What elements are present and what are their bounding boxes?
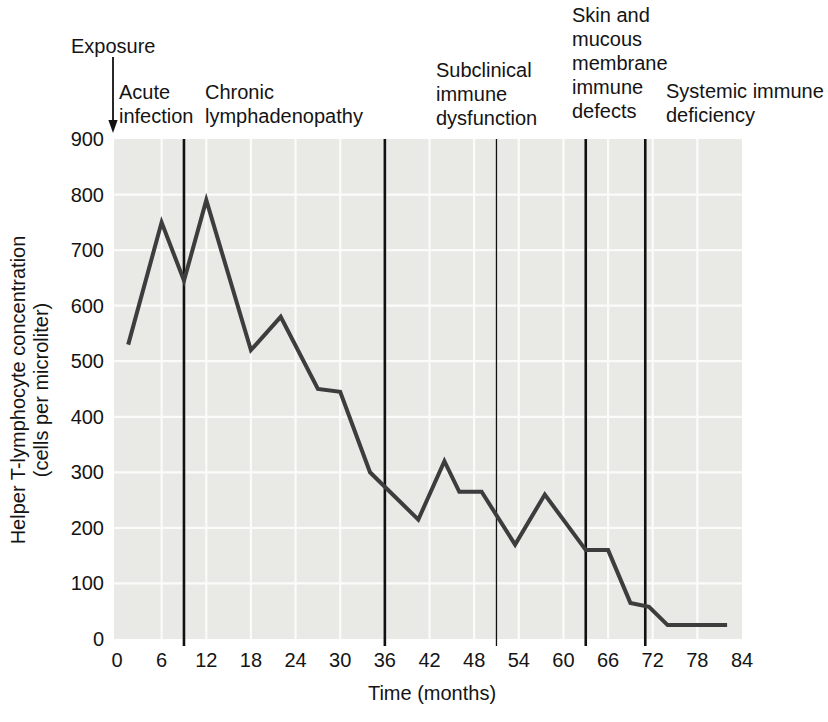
phase-label-skin-and-mucous-membrane-immune-defects: Skin and mucous membrane immune defects (572, 3, 668, 123)
y-axis-title-line2: (cells per microliter) (30, 303, 52, 477)
y-tick-label: 500 (71, 350, 104, 372)
exposure-arrowhead-icon (108, 120, 117, 133)
x-axis-title: Time (months) (368, 682, 496, 704)
phase-label-chronic-lymphadenopathy: Chronic lymphadenopathy (205, 80, 363, 128)
phase-label-systemic-immune-deficiency: Systemic immune deficiency (666, 79, 824, 127)
phase-label-acute-infection: Acute infection (119, 80, 194, 128)
x-tick-label: 12 (195, 649, 217, 671)
x-tick-label: 48 (463, 649, 485, 671)
x-tick-label: 30 (329, 649, 351, 671)
y-tick-label: 900 (71, 128, 104, 150)
y-tick-label: 800 (71, 184, 104, 206)
x-tick-label: 36 (374, 649, 396, 671)
y-tick-label: 0 (93, 628, 104, 650)
exposure-label: Exposure (71, 34, 156, 58)
y-tick-label: 600 (71, 295, 104, 317)
x-tick-label: 0 (111, 649, 122, 671)
y-tick-label: 400 (71, 406, 104, 428)
y-tick-label: 100 (71, 572, 104, 594)
x-tick-label: 78 (686, 649, 708, 671)
figure-hiv-tcell-decline: 0612182430364248546066727884010020030040… (0, 0, 828, 722)
x-tick-label: 24 (284, 649, 306, 671)
x-tick-label: 54 (508, 649, 530, 671)
plot-panel (114, 139, 742, 639)
x-tick-label: 42 (418, 649, 440, 671)
x-tick-label: 72 (642, 649, 664, 671)
y-tick-label: 700 (71, 239, 104, 261)
x-tick-label: 18 (240, 649, 262, 671)
x-tick-label: 60 (552, 649, 574, 671)
phase-label-subclinical-immune-dysfunction: Subclinical immune dysfunction (436, 58, 537, 130)
x-tick-label: 84 (731, 649, 753, 671)
x-tick-label: 66 (597, 649, 619, 671)
y-axis-title-line1: Helper T-lymphocyte concentration (7, 236, 29, 545)
x-tick-label: 6 (156, 649, 167, 671)
y-tick-label: 300 (71, 461, 104, 483)
y-tick-label: 200 (71, 517, 104, 539)
